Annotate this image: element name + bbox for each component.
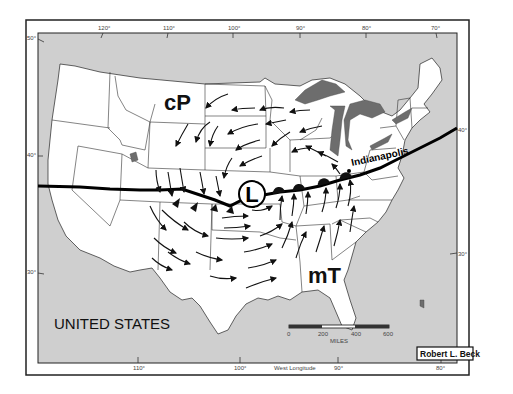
low-pressure-label: L	[245, 182, 258, 207]
credit-label: Robert L. Beck	[420, 349, 480, 359]
country-label: UNITED STATES	[54, 315, 170, 332]
scale-unit: MILES	[330, 338, 348, 344]
air-mass-mt: mT	[308, 263, 342, 288]
lon-80-top: 80°	[362, 25, 372, 31]
lon-100-top: 100°	[228, 25, 241, 31]
indianapolis-dot	[347, 169, 351, 173]
lon-90-top: 90°	[296, 25, 306, 31]
lon-70-top: 70°	[431, 25, 441, 31]
lon-120-top: 120°	[98, 25, 111, 31]
lon-110-bottom: 110°	[133, 365, 146, 371]
scale-200: 200	[318, 331, 329, 337]
scale-400: 400	[351, 331, 362, 337]
lat-50-left: 50°	[27, 35, 37, 41]
low-pressure-center: L	[239, 181, 265, 207]
lon-90-bottom: 90°	[334, 365, 344, 371]
weather-map: 120° 110° 100° 90° 80° 70° 50° 40° 30° 4…	[0, 0, 513, 394]
lon-100-bottom: 100°	[234, 365, 247, 371]
credit-box: Robert L. Beck	[417, 347, 480, 360]
air-mass-cp: cP	[164, 90, 191, 115]
west-longitude-label: West Longitude	[274, 365, 316, 371]
lat-40-left: 40°	[27, 152, 37, 158]
lon-80-bottom: 80°	[436, 365, 446, 371]
scale-600: 600	[383, 331, 394, 337]
lat-30-right: 30°	[458, 251, 468, 257]
lat-30-left: 30°	[27, 269, 37, 275]
lon-110-top: 110°	[163, 25, 176, 31]
lat-40-right: 40°	[458, 127, 468, 133]
